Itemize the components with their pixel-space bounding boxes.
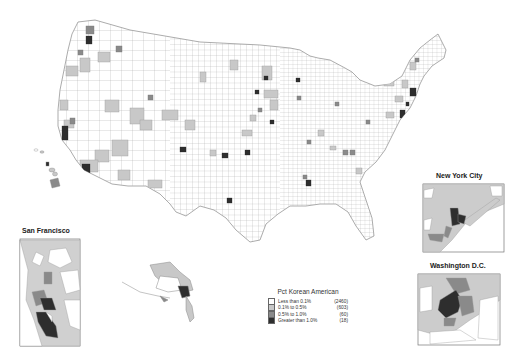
contiguous-us <box>55 15 450 245</box>
legend-label: Less than 0.1% <box>278 299 332 304</box>
legend-title: Pct Korean American <box>268 288 348 295</box>
new-york-inset-map <box>423 184 504 252</box>
legend-row: 0.5% to 1.0% (60) <box>268 311 348 318</box>
alaska <box>122 262 194 322</box>
legend-count: (2460) <box>332 299 348 304</box>
washington-dc-inset-title: Washington D.C. <box>430 262 486 269</box>
legend-row: Less than 0.1% (2460) <box>268 298 348 305</box>
washington-dc-inset-map <box>418 274 500 345</box>
new-york-inset-title: New York City <box>436 172 482 179</box>
hawaii <box>34 149 60 188</box>
map-legend: Pct Korean American Less than 0.1% (2460… <box>268 288 348 324</box>
legend-label: 0.5% to 1.0% <box>278 312 332 317</box>
legend-row: 0.1% to 0.5% (603) <box>268 305 348 312</box>
legend-label: 0.1% to 0.5% <box>278 305 332 310</box>
legend-count: (18) <box>332 318 348 323</box>
legend-label: Greater than 1.0% <box>278 318 332 323</box>
legend-count: (60) <box>332 312 348 317</box>
san-francisco-inset-title: San Francisco <box>22 227 70 234</box>
legend-row: Greater than 1.0% (18) <box>268 318 348 325</box>
legend-swatch-greater-than-1-0 <box>268 317 275 324</box>
legend-count: (603) <box>332 305 348 310</box>
san-francisco-inset-map <box>20 239 80 346</box>
